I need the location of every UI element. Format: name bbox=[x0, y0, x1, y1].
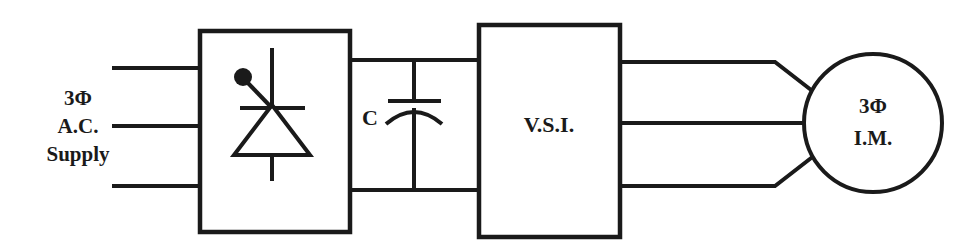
motor-label-line2: I.M. bbox=[854, 126, 893, 150]
block-diagram-canvas: 3Φ A.C. Supply bbox=[0, 0, 974, 248]
ac-input-lines bbox=[112, 68, 200, 186]
supply-label-line1: 3Φ bbox=[64, 86, 92, 110]
motor-output-lines bbox=[620, 62, 815, 186]
capacitor-label: C bbox=[362, 105, 378, 130]
supply-label-group: 3Φ A.C. Supply bbox=[46, 86, 110, 166]
motor-label-line1: 3Φ bbox=[859, 94, 887, 118]
thyristor-gate-dot bbox=[234, 68, 252, 86]
circuit-diagram: 3Φ A.C. Supply bbox=[0, 0, 974, 248]
output-phase-w-wire bbox=[620, 155, 815, 186]
dc-link-capacitor: C bbox=[362, 60, 442, 190]
supply-label-line3: Supply bbox=[46, 142, 110, 166]
output-phase-u-wire bbox=[620, 62, 815, 93]
induction-motor-circle bbox=[804, 54, 942, 192]
vsi-block-label: V.S.I. bbox=[524, 112, 574, 137]
supply-label-line2: A.C. bbox=[58, 114, 99, 138]
